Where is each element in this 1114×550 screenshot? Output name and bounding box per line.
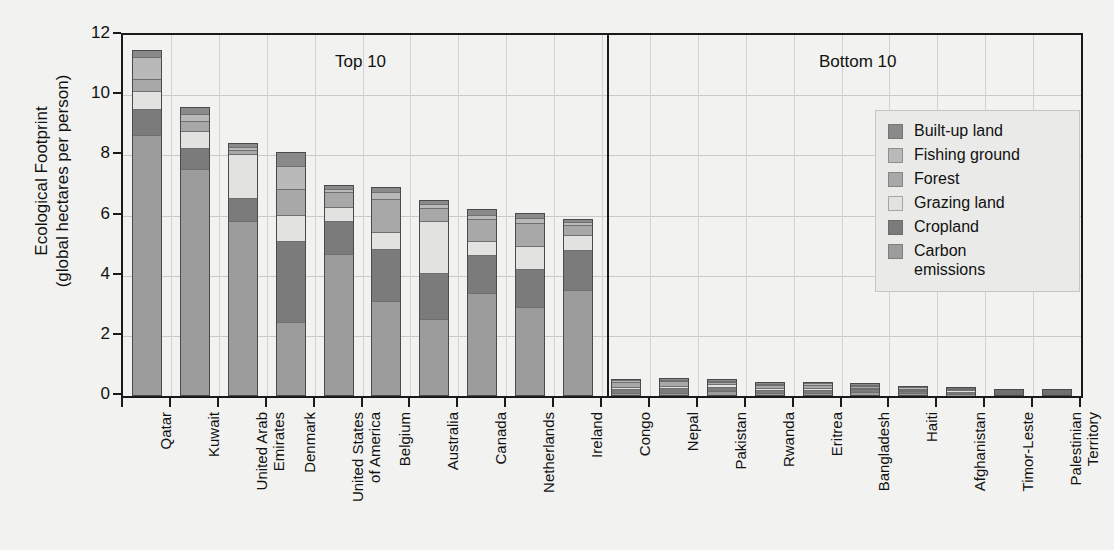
x-axis-label: Kuwait bbox=[205, 412, 222, 538]
legend-label: Carbon emissions bbox=[914, 241, 985, 279]
legend: Built-up landFishing groundForestGrazing… bbox=[875, 110, 1080, 292]
bar-18[interactable] bbox=[946, 387, 976, 396]
bar-10[interactable] bbox=[563, 219, 593, 396]
bar-8[interactable] bbox=[467, 209, 497, 396]
bar-segment bbox=[372, 233, 400, 250]
legend-item-5[interactable]: Cropland bbox=[888, 217, 1069, 236]
y-axis-tick bbox=[113, 32, 121, 34]
bar-segment bbox=[133, 51, 161, 58]
x-axis-label: United States of America bbox=[349, 412, 383, 538]
bar-segment bbox=[277, 153, 305, 167]
x-axis-label: Australia bbox=[444, 412, 461, 538]
bar-13[interactable] bbox=[707, 379, 737, 396]
x-axis-label: Palestinian Territory bbox=[1067, 412, 1101, 538]
x-axis-label: Ireland bbox=[588, 412, 605, 538]
legend-item-2[interactable]: Fishing ground bbox=[888, 145, 1069, 164]
bar-6[interactable] bbox=[371, 187, 401, 396]
x-axis-tick bbox=[1079, 398, 1081, 407]
category-separator bbox=[602, 35, 603, 396]
category-separator bbox=[506, 35, 507, 396]
y-axis-tick-label: 10 bbox=[70, 84, 110, 101]
legend-item-6[interactable]: Carbon emissions bbox=[888, 241, 1069, 279]
bar-segment bbox=[277, 190, 305, 216]
bar-14[interactable] bbox=[755, 382, 785, 396]
bar-segment bbox=[372, 200, 400, 233]
y-axis-tick bbox=[113, 152, 121, 154]
x-axis-tick bbox=[887, 398, 889, 407]
legend-swatch-icon bbox=[888, 220, 903, 235]
category-separator bbox=[219, 35, 220, 396]
x-axis-tick bbox=[935, 398, 937, 407]
x-axis-tick bbox=[408, 398, 410, 407]
legend-swatch-icon bbox=[888, 244, 903, 259]
y-axis-tick bbox=[113, 213, 121, 215]
bar-segment bbox=[277, 323, 305, 395]
legend-item-1[interactable]: Built-up land bbox=[888, 121, 1069, 140]
y-axis-tick-label: 6 bbox=[70, 205, 110, 222]
bar-segment bbox=[133, 92, 161, 109]
legend-swatch-icon bbox=[888, 148, 903, 163]
bar-11[interactable] bbox=[611, 379, 641, 396]
category-separator bbox=[315, 35, 316, 396]
bar-segment bbox=[133, 58, 161, 80]
bar-segment bbox=[325, 222, 353, 255]
x-axis-tick bbox=[744, 398, 746, 407]
bar-segment bbox=[420, 274, 448, 320]
bar-12[interactable] bbox=[659, 378, 689, 396]
x-axis-tick bbox=[792, 398, 794, 407]
bar-segment bbox=[133, 110, 161, 136]
x-axis-tick bbox=[217, 398, 219, 407]
bar-1[interactable] bbox=[132, 50, 162, 396]
y-axis-tick bbox=[113, 393, 121, 395]
bar-segment bbox=[516, 247, 544, 270]
bar-5[interactable] bbox=[324, 185, 354, 396]
chart-root: Ecological Footprint (global hectares pe… bbox=[0, 0, 1114, 550]
bar-segment bbox=[516, 270, 544, 309]
bar-segment bbox=[229, 199, 257, 222]
bar-segment bbox=[468, 220, 496, 243]
legend-label: Cropland bbox=[914, 217, 979, 236]
legend-item-4[interactable]: Grazing land bbox=[888, 193, 1069, 212]
x-axis-label: Congo bbox=[636, 412, 653, 538]
bar-segment bbox=[181, 170, 209, 395]
bar-3[interactable] bbox=[228, 143, 258, 396]
x-axis-label: Pakistan bbox=[732, 412, 749, 538]
bar-20[interactable] bbox=[1042, 389, 1072, 396]
bar-segment bbox=[756, 394, 784, 395]
bar-segment bbox=[612, 394, 640, 395]
legend-swatch-icon bbox=[888, 172, 903, 187]
bar-segment bbox=[851, 393, 879, 395]
x-axis-label: Afghanistan bbox=[971, 412, 988, 538]
bar-segment bbox=[468, 294, 496, 395]
legend-label: Grazing land bbox=[914, 193, 1005, 212]
x-axis-label: Denmark bbox=[301, 412, 318, 538]
bar-16[interactable] bbox=[850, 383, 880, 396]
bar-segment bbox=[277, 242, 305, 323]
bar-7[interactable] bbox=[419, 200, 449, 396]
x-axis-tick bbox=[313, 398, 315, 407]
bar-2[interactable] bbox=[180, 107, 210, 396]
bar-segment bbox=[899, 394, 927, 395]
legend-swatch-icon bbox=[888, 124, 903, 139]
bar-segment bbox=[181, 108, 209, 115]
bar-19[interactable] bbox=[994, 389, 1024, 396]
legend-label: Forest bbox=[914, 169, 959, 188]
bar-segment bbox=[277, 216, 305, 242]
bar-9[interactable] bbox=[515, 213, 545, 397]
x-axis-label: United Arab Emirates bbox=[253, 412, 287, 538]
category-separator bbox=[794, 35, 795, 396]
bar-segment bbox=[516, 308, 544, 395]
category-separator bbox=[746, 35, 747, 396]
y-axis-tick-label: 8 bbox=[70, 144, 110, 161]
bar-17[interactable] bbox=[898, 386, 928, 396]
x-axis-label: Eritrea bbox=[828, 412, 845, 538]
bar-segment bbox=[133, 136, 161, 395]
bar-segment bbox=[229, 155, 257, 200]
x-axis-label: Netherlands bbox=[540, 412, 557, 538]
x-axis-tick bbox=[121, 398, 123, 407]
bar-segment bbox=[181, 122, 209, 132]
bar-4[interactable] bbox=[276, 152, 306, 396]
bar-15[interactable] bbox=[803, 382, 833, 396]
legend-item-3[interactable]: Forest bbox=[888, 169, 1069, 188]
y-axis-title: Ecological Footprint (global hectares pe… bbox=[31, 11, 73, 351]
